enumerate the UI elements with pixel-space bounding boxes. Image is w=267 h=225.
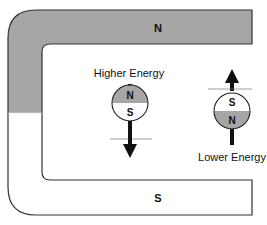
- lower-energy-dipole: S N Lower Energy: [198, 69, 266, 163]
- dipole-north-label: N: [126, 90, 133, 101]
- arrow-up-icon: [225, 69, 239, 83]
- higher-energy-dipole: Higher Energy N S: [94, 67, 165, 158]
- magnet-north-label: N: [154, 22, 162, 34]
- magnet-diagram: N S Higher Energy N S S N Lower Energy: [0, 0, 267, 225]
- arrow-down-icon: [123, 144, 137, 158]
- dipole-south-label: S: [229, 97, 236, 108]
- dipole-north-label: N: [228, 115, 235, 126]
- dipole-south-label: S: [127, 107, 134, 118]
- higher-energy-label: Higher Energy: [94, 67, 165, 79]
- magnet-south-label: S: [154, 192, 161, 204]
- dipole-stick: [230, 129, 234, 145]
- lower-energy-label: Lower Energy: [198, 151, 266, 163]
- arrow-shaft: [230, 81, 234, 91]
